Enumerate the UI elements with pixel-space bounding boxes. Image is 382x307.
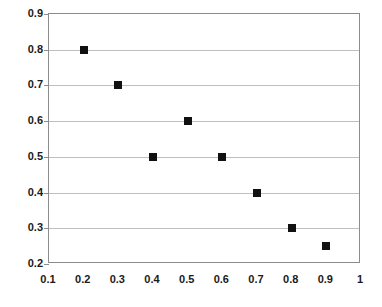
gridline <box>49 228 359 229</box>
y-axis-tick <box>44 264 49 265</box>
gridline <box>49 50 359 51</box>
y-axis-tick <box>44 121 49 122</box>
x-axis-tick-label: 0.9 <box>318 274 333 285</box>
x-axis-tick-label: 0.5 <box>179 274 194 285</box>
x-axis-tick-label: 0.8 <box>283 274 298 285</box>
gridline <box>49 193 359 194</box>
y-axis-tick-label: 0.8 <box>28 44 43 55</box>
y-axis-tick <box>44 50 49 51</box>
y-axis-tick-label: 0.4 <box>28 187 43 198</box>
y-axis-tick <box>44 157 49 158</box>
x-axis-tick-label: 1 <box>357 274 363 285</box>
data-point <box>114 81 122 89</box>
plot-area <box>48 13 360 263</box>
y-axis-tick-label: 0.5 <box>28 151 43 162</box>
data-point <box>149 153 157 161</box>
data-point <box>218 153 226 161</box>
x-axis-tick-label: 0.2 <box>75 274 90 285</box>
data-point <box>288 224 296 232</box>
data-point <box>253 189 261 197</box>
y-axis-tick <box>44 228 49 229</box>
x-axis-tick-label: 0.6 <box>214 274 229 285</box>
y-axis-tick <box>44 14 49 15</box>
gridline <box>49 85 359 86</box>
y-axis-tick-label: 0.3 <box>28 222 43 233</box>
y-axis-tick-label: 0.9 <box>28 8 43 19</box>
scatter-chart: 0.20.30.40.50.60.70.80.9 0.10.20.30.40.5… <box>0 0 382 307</box>
data-point <box>322 242 330 250</box>
data-point <box>184 117 192 125</box>
y-axis-tick-label: 0.2 <box>28 258 43 269</box>
y-axis-tick <box>44 193 49 194</box>
gridline <box>49 121 359 122</box>
x-axis-tick-label: 0.1 <box>40 274 55 285</box>
y-axis-tick <box>44 85 49 86</box>
x-axis-tick-label: 0.4 <box>144 274 159 285</box>
data-point <box>80 46 88 54</box>
x-axis-tick-label: 0.7 <box>248 274 263 285</box>
y-axis-tick-label: 0.6 <box>28 115 43 126</box>
y-axis-tick-label: 0.7 <box>28 79 43 90</box>
x-axis-tick-label: 0.3 <box>110 274 125 285</box>
gridline <box>49 157 359 158</box>
